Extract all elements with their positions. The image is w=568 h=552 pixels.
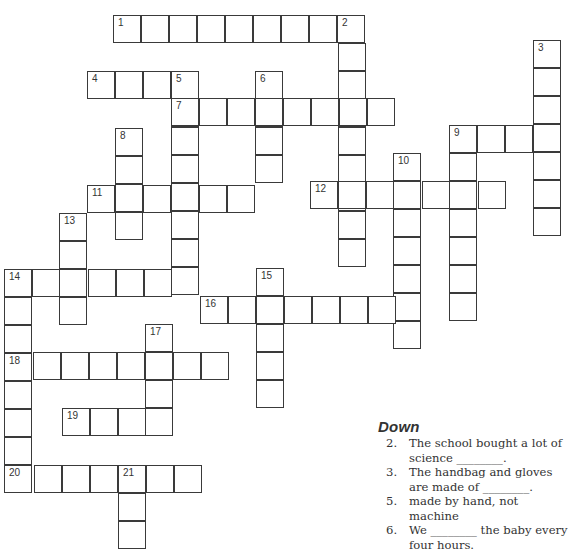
crossword-cell[interactable] (253, 15, 281, 43)
crossword-cell[interactable] (115, 184, 143, 212)
crossword-cell[interactable]: 16 (200, 296, 228, 324)
crossword-cell[interactable] (228, 296, 256, 324)
crossword-cell[interactable] (4, 325, 32, 353)
crossword-cell[interactable] (118, 408, 146, 436)
crossword-cell[interactable] (393, 209, 421, 237)
crossword-cell[interactable] (171, 155, 199, 183)
crossword-cell[interactable] (59, 269, 87, 297)
crossword-cell[interactable]: 10 (393, 153, 421, 181)
crossword-cell[interactable] (118, 521, 146, 549)
crossword-cell[interactable] (393, 181, 421, 209)
crossword-cell[interactable]: 2 (337, 15, 365, 43)
crossword-cell[interactable] (62, 465, 90, 493)
crossword-cell[interactable] (227, 185, 255, 213)
crossword-cell[interactable] (340, 296, 368, 324)
crossword-cell[interactable] (338, 239, 366, 267)
crossword-cell[interactable] (171, 239, 199, 267)
crossword-cell[interactable] (4, 437, 32, 465)
crossword-cell[interactable] (338, 211, 366, 239)
crossword-cell[interactable] (145, 408, 173, 436)
crossword-cell[interactable]: 14 (4, 269, 32, 297)
crossword-cell[interactable] (4, 381, 32, 409)
crossword-cell[interactable] (173, 352, 201, 380)
crossword-cell[interactable] (533, 180, 561, 208)
crossword-cell[interactable] (449, 209, 477, 237)
crossword-cell[interactable] (533, 68, 561, 96)
crossword-cell[interactable] (255, 98, 283, 126)
crossword-cell[interactable] (145, 352, 173, 380)
crossword-cell[interactable] (338, 155, 366, 183)
crossword-cell[interactable] (256, 296, 284, 324)
crossword-cell[interactable] (116, 269, 144, 297)
crossword-cell[interactable] (338, 71, 366, 99)
crossword-cell[interactable] (478, 181, 506, 209)
crossword-cell[interactable] (61, 352, 89, 380)
crossword-cell[interactable] (144, 269, 172, 297)
crossword-cell[interactable] (171, 211, 199, 239)
crossword-cell[interactable] (88, 269, 116, 297)
crossword-cell[interactable] (89, 352, 117, 380)
crossword-cell[interactable] (117, 352, 145, 380)
crossword-cell[interactable] (533, 152, 561, 180)
crossword-cell[interactable]: 20 (4, 465, 32, 493)
crossword-cell[interactable]: 5 (171, 71, 199, 99)
crossword-cell[interactable] (393, 265, 421, 293)
crossword-cell[interactable]: 21 (118, 465, 146, 493)
crossword-cell[interactable] (255, 127, 283, 155)
crossword-cell[interactable] (477, 125, 505, 153)
crossword-cell[interactable] (283, 98, 311, 126)
crossword-cell[interactable] (90, 465, 118, 493)
crossword-cell[interactable] (90, 408, 118, 436)
crossword-cell[interactable] (368, 296, 396, 324)
crossword-cell[interactable] (174, 465, 202, 493)
crossword-cell[interactable]: 9 (449, 125, 477, 153)
crossword-cell[interactable] (338, 43, 366, 71)
crossword-cell[interactable] (59, 297, 87, 325)
crossword-cell[interactable] (118, 493, 146, 521)
crossword-cell[interactable]: 15 (256, 268, 284, 296)
crossword-cell[interactable] (533, 208, 561, 236)
crossword-cell[interactable]: 4 (87, 71, 115, 99)
crossword-cell[interactable] (449, 153, 477, 181)
crossword-cell[interactable] (312, 296, 340, 324)
crossword-cell[interactable] (449, 265, 477, 293)
crossword-cell[interactable] (225, 15, 253, 43)
crossword-cell[interactable] (32, 269, 60, 297)
crossword-cell[interactable]: 11 (87, 185, 115, 213)
crossword-cell[interactable] (533, 96, 561, 124)
crossword-cell[interactable]: 6 (255, 71, 283, 99)
crossword-cell[interactable] (533, 124, 561, 152)
crossword-cell[interactable] (338, 127, 366, 155)
crossword-cell[interactable] (309, 15, 337, 43)
crossword-cell[interactable]: 12 (310, 181, 338, 209)
crossword-cell[interactable] (256, 352, 284, 380)
crossword-cell[interactable] (449, 181, 477, 209)
crossword-cell[interactable]: 13 (59, 213, 87, 241)
crossword-cell[interactable] (171, 267, 199, 295)
crossword-cell[interactable] (115, 71, 143, 99)
crossword-cell[interactable] (339, 98, 367, 126)
crossword-cell[interactable] (338, 181, 366, 209)
crossword-cell[interactable]: 17 (145, 324, 173, 352)
crossword-cell[interactable] (284, 296, 312, 324)
crossword-cell[interactable] (115, 212, 143, 240)
crossword-cell[interactable] (227, 98, 255, 126)
crossword-cell[interactable] (169, 15, 197, 43)
crossword-cell[interactable]: 19 (62, 408, 90, 436)
crossword-cell[interactable] (146, 465, 174, 493)
crossword-cell[interactable] (171, 183, 199, 211)
crossword-cell[interactable] (281, 15, 309, 43)
crossword-cell[interactable] (256, 380, 284, 408)
crossword-cell[interactable] (422, 181, 450, 209)
crossword-cell[interactable] (4, 409, 32, 437)
crossword-cell[interactable] (197, 15, 225, 43)
crossword-cell[interactable] (255, 155, 283, 183)
crossword-cell[interactable] (33, 352, 61, 380)
crossword-cell[interactable] (311, 98, 339, 126)
crossword-cell[interactable] (143, 185, 171, 213)
crossword-cell[interactable] (115, 156, 143, 184)
crossword-cell[interactable]: 8 (115, 128, 143, 156)
crossword-cell[interactable] (145, 380, 173, 408)
crossword-cell[interactable] (393, 237, 421, 265)
crossword-cell[interactable] (34, 465, 62, 493)
